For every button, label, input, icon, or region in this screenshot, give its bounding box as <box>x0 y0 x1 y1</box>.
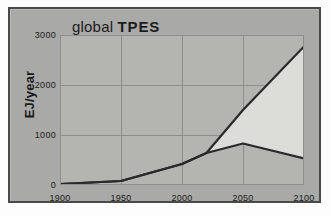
chart-title-upper: TPES <box>118 18 160 35</box>
x-tick-2100: 2100 <box>280 193 328 203</box>
x-tick-2050: 2050 <box>219 193 267 203</box>
chart-card: global TPES EJ/year 3000 2000 1000 0 190… <box>8 7 321 203</box>
x-tick-1900: 1900 <box>36 193 84 203</box>
x-tick-1950: 1950 <box>97 193 145 203</box>
chart-title-lower: global <box>72 18 118 35</box>
x-tick-2000: 2000 <box>158 193 206 203</box>
y-tick-2000: 2000 <box>16 80 56 90</box>
figure-root: global TPES EJ/year 3000 2000 1000 0 190… <box>0 0 331 216</box>
y-axis-tick-labels: 3000 2000 1000 0 <box>14 9 56 201</box>
y-tick-3000: 3000 <box>16 30 56 40</box>
chart-plot-svg <box>60 35 304 185</box>
chart-title: global TPES <box>72 18 160 35</box>
y-tick-1000: 1000 <box>16 130 56 140</box>
plot-area <box>60 35 304 185</box>
x-axis-tick-labels: 1900 1950 2000 2050 2100 <box>10 193 319 207</box>
y-tick-0: 0 <box>16 180 56 190</box>
